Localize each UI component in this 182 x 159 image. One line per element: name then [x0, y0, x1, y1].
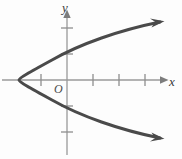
origin-label: O [54, 83, 63, 95]
parabola-figure: x y O [0, 0, 182, 159]
y-axis-label: y [62, 1, 68, 14]
x-axis-label: x [169, 75, 175, 88]
coordinate-plane-svg [0, 0, 182, 159]
x-axis-arrow-icon [160, 76, 169, 84]
